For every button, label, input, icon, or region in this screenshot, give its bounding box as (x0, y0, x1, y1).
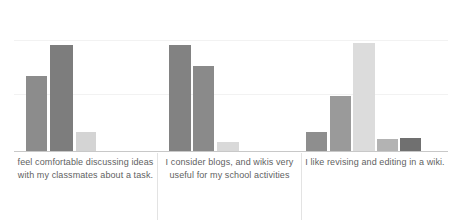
bar (330, 96, 351, 152)
bar (306, 132, 327, 152)
gridline (14, 94, 448, 95)
x-axis-line (14, 151, 448, 152)
bar (377, 139, 398, 151)
category-label-3: I like revising and editing in a wiki. (302, 156, 448, 169)
bar (50, 45, 73, 152)
bar (26, 76, 47, 151)
category-label-2: I consider blogs, and wikis very useful … (158, 156, 301, 181)
bar (169, 45, 191, 152)
grouped-bar-chart: feel comfortable discussing ideas with m… (0, 0, 461, 220)
plot-area (0, 0, 461, 152)
bar (353, 43, 375, 151)
bar (400, 138, 421, 152)
category-labels-row: feel comfortable discussing ideas with m… (0, 153, 461, 220)
gridline (14, 40, 448, 41)
bar (76, 132, 96, 152)
bar (193, 66, 214, 152)
category-label-1: feel comfortable discussing ideas with m… (14, 156, 157, 181)
bar (217, 142, 239, 151)
